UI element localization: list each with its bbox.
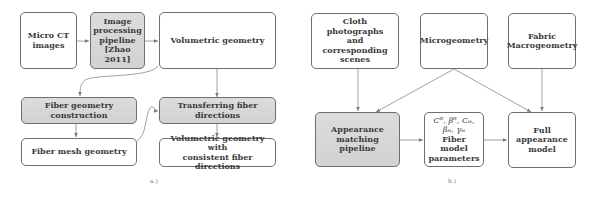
arrow-volumetric-to-fiber-construction [80,66,158,96]
panel-b-label: b.) [448,177,456,184]
box-label: Micro CT images [28,31,69,50]
box-label: Fiber model parameters [428,135,480,164]
box-label: Microgeometry [420,36,488,46]
box-fiber-model-parameters: Cᴿ, βᴿ, Cₜₜ, βₜₜ, γₜₜ Fiber model parame… [424,112,484,167]
box-label: Transferring fiber directions [163,101,272,120]
box-fabric-macrogeometry: Fabric Macrogeometry [508,13,576,69]
panel-a-label: a.) [150,177,158,184]
box-transferring-fiber-directions: Transferring fiber directions [159,97,276,124]
box-microgeometry: Microgeometry [420,13,488,69]
box-label: Volumetric geometry [171,36,265,46]
box-label: Volumetric geometry with consistent fibe… [163,134,272,172]
box-label: Appearance matching pipeline [319,125,396,154]
box-label: Fiber mesh geometry [31,147,126,157]
box-appearance-matching-pipeline: Appearance matching pipeline [315,112,400,167]
box-volumetric-geometry: Volumetric geometry [159,12,276,69]
box-micro-ct-images: Micro CT images [20,12,77,69]
param-symbols-line-1: Cᴿ, βᴿ, Cₜₜ, [433,116,474,126]
box-label: Image processing pipeline [Zhao 2011] [93,17,142,65]
box-cloth-photographs: Cloth photographs and corresponding scen… [311,13,399,69]
box-label: Fiber geometry construction [25,101,133,120]
box-image-processing-pipeline: Image processing pipeline [Zhao 2011] [90,12,145,69]
box-label: Fabric Macrogeometry [507,32,578,51]
arrow-micro-to-full [454,69,531,112]
arrow-micro-to-matching [376,69,454,112]
box-fiber-geometry-construction: Fiber geometry construction [21,97,137,124]
box-fiber-mesh-geometry: Fiber mesh geometry [21,138,137,166]
box-full-appearance-model: Full appearance model [508,112,576,168]
box-label: Cloth photographs and corresponding scen… [315,17,395,65]
arrow-mesh-to-transferring [137,107,158,141]
box-volumetric-consistent: Volumetric geometry with consistent fibe… [159,138,276,167]
box-label: Full appearance model [512,126,572,155]
